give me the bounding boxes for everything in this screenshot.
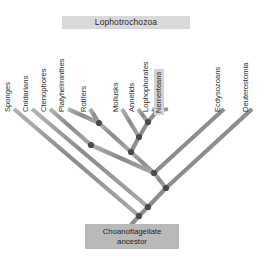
tip-label-nemerteans: Nemerteans <box>154 69 164 115</box>
branch-ecdysozoans <box>154 109 224 173</box>
branch-mollusks <box>122 109 139 137</box>
root-label-choanoflagellate-ancestor: Choanoflagellate ancestor <box>85 224 179 249</box>
node-lophotrochozoa-crown <box>128 149 134 155</box>
node-protostome <box>151 170 157 176</box>
node-platyhelminthes-rotifers <box>96 120 102 126</box>
node-metazoa <box>136 213 142 219</box>
node-mollusks-clade <box>136 134 142 140</box>
tip-label-cnidarians: Cnidarians <box>22 76 30 112</box>
branch-bilateria-stem <box>148 188 166 207</box>
tip-label-mollusks: Mollusks <box>112 82 120 112</box>
tip-label-sponges: Sponges <box>4 82 12 112</box>
branch-sponges <box>14 109 139 216</box>
tip-label-lophophorates: Lophophorates <box>142 61 150 112</box>
root-label-line1: Choanoflagellate <box>103 227 162 236</box>
tip-label-deuterostomia: Deuterostomia <box>242 63 250 112</box>
node-eumetazoa <box>145 204 151 210</box>
tip-label-ctenophores: Ctenophores <box>40 69 48 112</box>
node-lophotrochozoa-base <box>88 142 94 148</box>
node-annelids-clade <box>145 119 151 125</box>
node-bilateria <box>163 185 169 191</box>
branch-lines <box>14 109 252 225</box>
tip-label-annelids: Annelids <box>128 83 136 112</box>
branch-rotifers-down <box>99 123 131 152</box>
tip-label-platyhelminthes: Platyhelminthes <box>58 58 66 112</box>
tip-label-rotifers: Rotifers <box>80 86 88 112</box>
clade-banner-lophotrochozoa: Lophotrochozoa <box>62 16 190 29</box>
tip-label-ecdysozoans: Ecdysozoans <box>214 67 222 112</box>
root-label-line2: ancestor <box>117 237 147 246</box>
